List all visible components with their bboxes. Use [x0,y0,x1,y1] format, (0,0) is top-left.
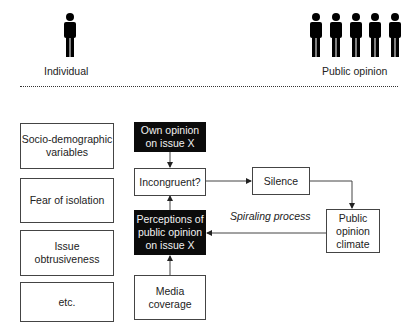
factor-issue-obtrusiveness: Issue obtrusiveness [20,230,114,276]
node-public-opinion-climate: Public opinion climate [326,209,380,253]
node-perceptions: Perceptions of public opinion on issue X [134,210,206,255]
node-media-coverage: Media coverage [134,275,206,320]
node-silence: Silence [252,167,310,195]
factor-fear-of-isolation: Fear of isolation [20,178,114,223]
node-incongruent: Incongruent? [134,168,206,196]
factor-socio-demographic: Socio-demographic variables [20,123,114,169]
node-own-opinion: Own opinion on issue X [134,122,206,152]
spiraling-process-annotation: Spiraling process [230,210,311,222]
factor-etc: etc. [20,282,114,322]
